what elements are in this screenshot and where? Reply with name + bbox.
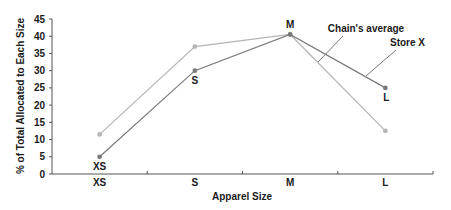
x-axis-title: Apparel Size	[212, 191, 272, 202]
x-tick-label: XS	[93, 177, 107, 188]
point-label: L	[383, 92, 389, 103]
point-label: M	[286, 19, 294, 30]
y-tick-label: 0	[39, 169, 45, 180]
callout-leader	[366, 50, 396, 76]
series-chain-s-average	[97, 32, 388, 137]
y-tick-label: 25	[34, 82, 46, 93]
data-point	[192, 68, 197, 73]
data-point	[288, 32, 293, 37]
callout-chain-average: Chain's average	[328, 23, 405, 34]
point-label: XS	[93, 161, 107, 172]
callouts: Chain's averageStore X	[318, 23, 425, 76]
data-point	[192, 44, 197, 49]
y-tick-label: 35	[34, 48, 46, 59]
y-tick-label: 45	[34, 14, 46, 25]
callout-store-x: Store X	[390, 37, 425, 48]
y-axis-title: % of Total Allocated to Each Size	[15, 17, 26, 174]
x-tick-label: M	[286, 177, 294, 188]
point-label: S	[192, 75, 199, 86]
y-tick-label: 20	[34, 100, 46, 111]
y-tick-label: 30	[34, 65, 46, 76]
callout-leader	[318, 36, 343, 62]
y-tick-label: 10	[34, 134, 46, 145]
data-point	[97, 154, 102, 159]
x-tick-label: L	[382, 177, 388, 188]
y-tick-label: 15	[34, 117, 46, 128]
series-line	[100, 35, 386, 135]
series-lines: XSSML	[93, 19, 389, 172]
y-axis: 051015202530354045	[34, 14, 52, 180]
chart: 051015202530354045 XSSML % of Total Allo…	[0, 0, 451, 210]
x-tick-label: S	[192, 177, 199, 188]
data-point	[383, 129, 388, 134]
data-point	[383, 85, 388, 90]
series-store-x: XSSML	[93, 19, 389, 172]
data-point	[97, 132, 102, 137]
x-axis: XSSML	[52, 171, 433, 188]
y-tick-label: 5	[39, 151, 45, 162]
y-tick-label: 40	[34, 31, 46, 42]
